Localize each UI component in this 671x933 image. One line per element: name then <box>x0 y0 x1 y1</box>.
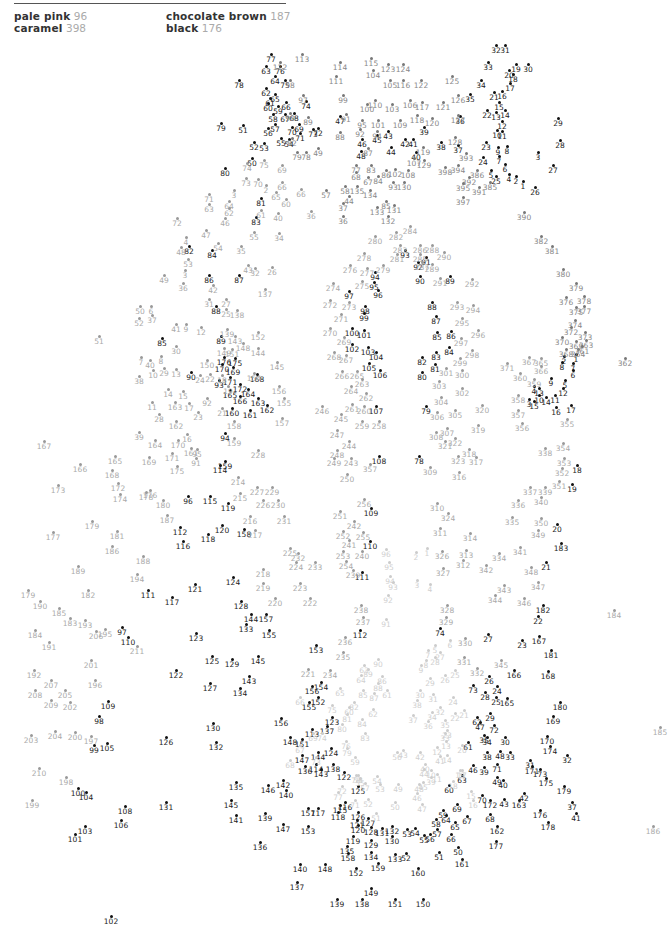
dot-number: 170 <box>540 738 554 746</box>
dot-number: 68 <box>351 174 361 182</box>
dot-number: 70 <box>253 181 263 189</box>
dot-number: 61 <box>382 692 392 700</box>
dot-number: 50 <box>453 849 463 857</box>
dot-number: 395 <box>456 185 470 193</box>
dot-number: 52 <box>363 801 373 809</box>
dot-number: 40 <box>273 215 283 223</box>
dot-number: 92 <box>202 400 212 408</box>
dot-number: 73 <box>468 687 478 695</box>
dot-number: 172 <box>111 485 125 493</box>
dot-number: 227 <box>250 489 264 497</box>
dot-number: 106 <box>114 822 128 830</box>
dot-number: 16 <box>497 93 507 101</box>
dot-number: 167 <box>532 638 546 646</box>
dot-number: 57 <box>321 192 331 200</box>
dot-number: 169 <box>142 459 156 467</box>
dot-number: 179 <box>557 788 571 796</box>
dot-number: 130 <box>385 838 399 846</box>
dot-number: 169 <box>226 369 240 377</box>
dot-number: 194 <box>130 576 144 584</box>
dot-number: 222 <box>303 600 317 608</box>
dot-number: 6 <box>448 642 453 650</box>
dot-number: 162 <box>490 828 504 836</box>
dot-number: 36 <box>338 218 348 226</box>
dot-number: 91 <box>191 460 201 468</box>
dot-number: 182 <box>81 592 95 600</box>
dot-number: 131 <box>159 804 173 812</box>
dot-number: 14 <box>442 757 452 765</box>
dot-number: 299 <box>453 360 467 368</box>
dot-number: 150 <box>200 362 214 370</box>
dot-number: 338 <box>538 450 552 458</box>
dot-number: 7 <box>426 652 431 660</box>
dot-number: 57 <box>432 831 442 839</box>
dot-number: 370 <box>555 339 569 347</box>
dot-number: 121 <box>188 586 202 594</box>
dot-number: 42 <box>208 287 218 295</box>
dot-number: 29 <box>159 370 169 378</box>
dot-number: 344 <box>488 597 502 605</box>
dot-number: 314 <box>463 535 477 543</box>
dot-number: 62 <box>368 711 378 719</box>
dot-number: 321 <box>438 443 452 451</box>
dot-number: 88 <box>335 134 345 142</box>
dot-number: 242 <box>347 523 361 531</box>
dot-number: 29 <box>553 120 563 128</box>
dot-number: 185 <box>653 729 667 737</box>
dot-number: 397 <box>456 199 470 207</box>
dot-number: 98 <box>94 718 104 726</box>
dot-number: 97 <box>344 293 354 301</box>
dot-number: 137 <box>258 291 272 299</box>
dot-number: 136 <box>298 768 312 776</box>
dot-number: 169 <box>546 718 560 726</box>
dot-number: 205 <box>58 692 72 700</box>
dot-number: 162 <box>260 407 274 415</box>
dot-number: 343 <box>497 587 511 595</box>
dot-number: 146 <box>261 787 275 795</box>
dot-number: 94 <box>372 133 382 141</box>
dot-number: 255 <box>356 534 370 542</box>
dot-number: 69 <box>308 735 318 743</box>
dot-number: 198 <box>59 779 73 787</box>
dot-number: 177 <box>46 534 60 542</box>
dot-number: 266 <box>335 373 349 381</box>
dot-number: 351 <box>552 483 566 491</box>
dot-number: 66 <box>295 699 305 707</box>
dot-number: 106 <box>373 372 387 380</box>
dot-number: 158 <box>341 855 355 863</box>
dot-number: 32 <box>435 709 445 717</box>
dot-number: 175 <box>539 780 553 788</box>
dot-number: 48 <box>495 753 505 761</box>
dot-number: 132 <box>381 218 395 226</box>
dot-number: 155 <box>277 400 291 408</box>
dot-number: 110 <box>363 543 377 551</box>
dot-number: 372 <box>564 329 578 337</box>
dot-number: 258 <box>372 423 386 431</box>
dot-number: 334 <box>492 555 506 563</box>
dot-number: 23 <box>442 732 452 740</box>
dot-number: 308 <box>429 434 443 442</box>
dot-number: 84 <box>357 721 367 729</box>
dot-number: 78 <box>301 154 311 162</box>
dot-number: 118 <box>201 536 215 544</box>
dot-number: 93 <box>388 584 398 592</box>
dot-number: 8 <box>424 662 429 670</box>
dot-number: 12 <box>432 749 442 757</box>
dot-number: 143 <box>242 678 256 686</box>
dot-number: 28 <box>555 142 565 150</box>
dot-number: 27 <box>435 654 445 662</box>
dot-number: 67 <box>462 818 472 826</box>
dot-number: 124 <box>226 579 240 587</box>
dot-number: 226 <box>256 502 270 510</box>
dot-number: 301 <box>439 370 453 378</box>
dot-number: 142 <box>276 782 290 790</box>
dot-number: 283 <box>393 247 407 255</box>
dot-number: 22 <box>533 618 543 626</box>
dot-number: 85 <box>157 340 167 348</box>
dot-number: 28 <box>480 694 490 702</box>
dot-number: 43 <box>398 752 408 760</box>
dot-number: 112 <box>273 64 287 72</box>
dot-number: 39 <box>479 769 489 777</box>
dot-number: 155 <box>262 632 276 640</box>
dot-number: 37 <box>408 717 418 725</box>
